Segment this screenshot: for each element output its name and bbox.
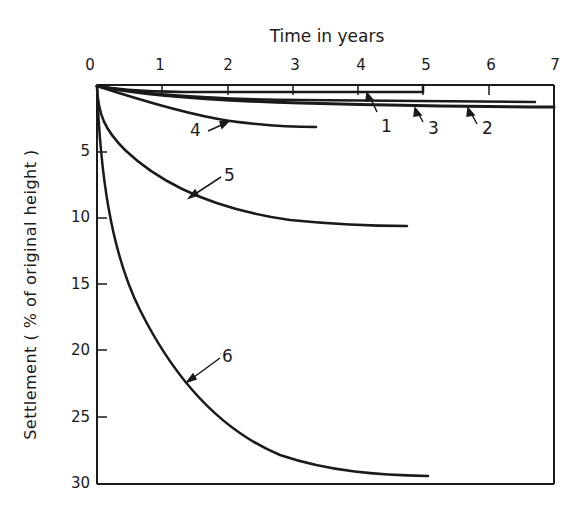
plot-area [0,0,584,512]
curve-label-1: 1 [381,116,392,136]
curve-label-4: 4 [190,120,201,140]
x-tick-marks [162,85,489,95]
curve-2 [97,86,554,107]
curve-5 [97,86,407,226]
curve-6 [97,86,428,476]
curve-1 [97,85,423,92]
settlement-chart: Time in years Settlement ( % of original… [0,0,584,512]
curve-label-5: 5 [224,165,235,185]
curve-label-6: 6 [222,346,233,366]
curve-label-2: 2 [482,118,493,138]
curve-label-3: 3 [428,118,439,138]
axes-frame [97,85,554,484]
